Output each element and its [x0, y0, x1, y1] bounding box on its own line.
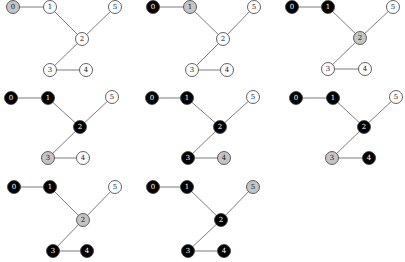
node-0-visited: 0 [5, 92, 18, 105]
node-4-visited: 4 [218, 245, 231, 258]
node-label: 1 [48, 3, 52, 11]
graph-panel-7: 012345 [8, 181, 122, 258]
node-label: 2 [80, 35, 84, 43]
node-label: 3 [326, 65, 330, 73]
graph-panel-5: 012345 [146, 91, 260, 165]
node-5-unvisited: 5 [109, 181, 122, 194]
node-label: 0 [11, 3, 15, 11]
graph-panel-6: 012345 [290, 91, 403, 165]
node-label: 0 [294, 94, 298, 102]
node-label: 4 [222, 154, 227, 162]
graph-panel-3: 012345 [286, 1, 400, 76]
node-label: 2 [78, 123, 82, 131]
node-1-visited: 1 [181, 181, 194, 194]
node-2-current: 2 [77, 214, 90, 227]
node-label: 3 [186, 247, 190, 255]
node-5-unvisited: 5 [247, 91, 260, 104]
node-label: 1 [188, 3, 192, 11]
node-label: 0 [151, 183, 155, 191]
node-2-unvisited: 2 [217, 33, 230, 46]
node-4-unvisited: 4 [359, 63, 372, 76]
node-label: 0 [150, 94, 154, 102]
node-1-visited: 1 [327, 92, 340, 105]
node-5-unvisited: 5 [390, 91, 403, 104]
node-5-unvisited: 5 [106, 91, 119, 104]
node-3-visited: 3 [47, 245, 60, 258]
node-1-visited: 1 [42, 92, 55, 105]
node-3-unvisited: 3 [186, 64, 199, 77]
node-2-unvisited: 2 [76, 33, 89, 46]
node-5-unvisited: 5 [248, 1, 261, 14]
node-label: 1 [46, 94, 50, 102]
node-label: 0 [151, 3, 155, 11]
node-label: 5 [110, 93, 114, 101]
node-label: 2 [81, 216, 85, 224]
node-4-visited: 4 [81, 245, 94, 258]
node-5-unvisited: 5 [387, 1, 400, 14]
node-label: 1 [185, 183, 189, 191]
node-0-visited: 0 [147, 181, 160, 194]
graph-traversal-diagram: 0123450123450123450123450123450123450123… [0, 0, 405, 262]
node-label: 2 [218, 123, 222, 131]
node-2-visited: 2 [214, 121, 227, 134]
node-label: 3 [330, 154, 334, 162]
node-label: 5 [113, 183, 117, 191]
node-label: 0 [9, 94, 13, 102]
graph-panel-8: 012345 [147, 181, 260, 258]
node-label: 2 [221, 35, 225, 43]
node-1-unvisited: 1 [44, 1, 57, 14]
node-3-unvisited: 3 [322, 63, 335, 76]
node-1-visited: 1 [44, 181, 57, 194]
edge-1-2 [187, 187, 221, 220]
node-0-visited: 0 [290, 92, 303, 105]
node-label: 4 [81, 154, 86, 162]
node-5-unvisited: 5 [109, 1, 122, 14]
node-label: 2 [358, 34, 362, 42]
node-label: 4 [84, 66, 89, 74]
node-label: 0 [12, 183, 16, 191]
node-3-visited: 3 [182, 245, 195, 258]
node-label: 4 [85, 247, 90, 255]
node-0-visited: 0 [286, 1, 299, 14]
node-3-current: 3 [42, 152, 55, 165]
graph-panel-2: 012345 [147, 1, 261, 77]
node-4-visited: 4 [363, 152, 376, 165]
node-4-unvisited: 4 [80, 64, 93, 77]
node-0-current: 0 [7, 1, 20, 14]
graph-panel-4: 012345 [5, 91, 119, 165]
node-label: 3 [186, 154, 190, 162]
node-label: 3 [51, 247, 55, 255]
node-0-visited: 0 [146, 92, 159, 105]
node-label: 3 [48, 66, 52, 74]
node-label: 1 [185, 94, 189, 102]
node-label: 2 [219, 216, 223, 224]
graph-panel-1: 012345 [7, 1, 122, 77]
node-label: 5 [251, 183, 255, 191]
node-label: 4 [225, 66, 230, 74]
node-2-current: 2 [354, 32, 367, 45]
node-label: 3 [190, 66, 194, 74]
node-label: 1 [48, 183, 52, 191]
node-label: 4 [363, 65, 368, 73]
node-3-visited: 3 [182, 152, 195, 165]
node-3-unvisited: 3 [44, 64, 57, 77]
node-label: 5 [251, 93, 255, 101]
node-label: 0 [290, 3, 294, 11]
node-2-visited: 2 [215, 214, 228, 227]
node-label: 4 [367, 154, 372, 162]
node-2-visited: 2 [74, 121, 87, 134]
node-5-current: 5 [247, 181, 260, 194]
node-4-unvisited: 4 [221, 64, 234, 77]
node-label: 5 [252, 3, 256, 11]
node-label: 5 [113, 3, 117, 11]
node-label: 1 [331, 94, 335, 102]
node-0-visited: 0 [147, 1, 160, 14]
node-label: 4 [222, 247, 227, 255]
node-label: 5 [394, 93, 398, 101]
node-0-visited: 0 [8, 181, 21, 194]
node-label: 1 [326, 3, 330, 11]
node-4-current: 4 [218, 152, 231, 165]
node-4-unvisited: 4 [77, 152, 90, 165]
node-label: 5 [391, 3, 395, 11]
node-3-current: 3 [326, 152, 339, 165]
